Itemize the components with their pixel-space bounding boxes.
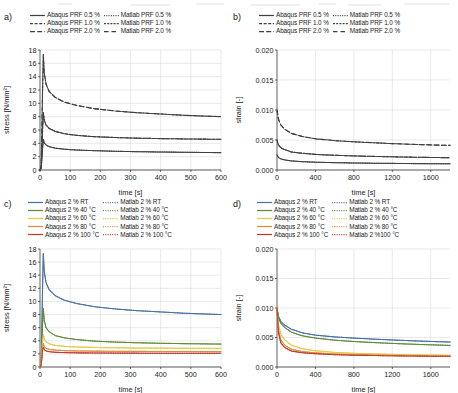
legend-label: Abaqus 2 % 60 °C	[45, 214, 96, 222]
y-tick-label: 2	[33, 152, 37, 161]
legend-line-swatch-icon	[332, 223, 347, 230]
panel-b: b) Abaqus PRF 0.5 %Matlab PRF 0.5 %Abaqu…	[229, 0, 458, 196]
legend-line-swatch-icon	[259, 28, 274, 35]
legend-line-swatch-icon	[28, 223, 43, 230]
legend-item: Matlab 2 % 80 °C	[103, 223, 172, 231]
legend-line-swatch-icon	[103, 231, 118, 238]
legend-item: Abaqus PRF 0.5 %	[30, 11, 100, 19]
legend-line-swatch-icon	[332, 199, 347, 206]
legend-item: Matlab 2 %100 °C	[332, 231, 399, 239]
legend-item: Matlab PRF 1.0 %	[104, 19, 171, 27]
legend-item: Abaqus 2 % RT	[28, 198, 99, 206]
legend-line-swatch-icon	[257, 223, 272, 230]
legend-item: Abaqus 2 % 100 °C	[257, 231, 328, 239]
legend-item: Matlab PRF 0.5 %	[333, 11, 400, 19]
x-tick-label: 100	[64, 173, 76, 182]
legend-item: Matlab PRF 1.0 %	[333, 19, 400, 27]
legend-line-swatch-icon	[257, 199, 272, 206]
legend-line-swatch-icon	[333, 12, 348, 19]
legend-line-swatch-icon	[28, 199, 43, 206]
chart-svg: 0.0000.0050.0100.0150.020040080012001600…	[229, 243, 458, 393]
x-tick-label: 300	[125, 370, 137, 379]
y-tick-label: 4	[33, 139, 37, 148]
y-axis-title: stress [N/mm²]	[2, 86, 11, 134]
legend-item: Abaqus 2 % 80 °C	[28, 223, 99, 231]
y-tick-label: 8	[33, 310, 37, 319]
y-tick-label: 18	[29, 245, 37, 254]
legend-item: Abaqus PRF 0.5 %	[259, 11, 329, 19]
legend-label: Matlab 2 % 40 °C	[349, 206, 397, 214]
legend-label: Abaqus PRF 0.5 %	[276, 11, 329, 19]
y-tick-label: 0.015	[256, 274, 274, 283]
panel-c-legend: Abaqus 2 % RTMatlab 2 % RTAbaqus 2 % 40 …	[28, 198, 172, 239]
gridlines	[40, 249, 221, 367]
legend-label: Matlab PRF 2.0 %	[121, 27, 171, 35]
x-tick-label: 0	[275, 370, 279, 379]
legend-item: Abaqus 2 % 40 °C	[257, 206, 328, 214]
panel-a-label: a)	[4, 12, 12, 22]
y-tick-label: 0.000	[256, 166, 274, 175]
legend-label: Matlab PRF 1.0 %	[121, 19, 171, 27]
legend-line-swatch-icon	[332, 231, 347, 238]
chart-svg: 0246810121416180100200300400500600time […	[0, 243, 229, 393]
legend-label: Abaqus 2 % 80 °C	[274, 223, 325, 231]
legend-item: Abaqus 2 % 80 °C	[257, 223, 328, 231]
legend-line-swatch-icon	[257, 231, 272, 238]
chart-svg: 0246810121416180100200300400500600time […	[0, 44, 229, 196]
legend-label: Abaqus 2 % RT	[45, 198, 88, 206]
panel-d-legend: Abaqus 2 % RTMatlab 2 % RTAbaqus 2 % 40 …	[257, 198, 399, 239]
panel-b-label: b)	[233, 12, 241, 22]
legend-line-swatch-icon	[28, 207, 43, 214]
x-tick-label: 400	[309, 370, 321, 379]
y-axis-title: stress [N/mm²]	[2, 284, 11, 332]
legend-item: Matlab 2 % 60 °C	[332, 214, 399, 222]
panel-a: a) Abaqus PRF 0.5 %Matlab PRF 0.5 %Abaqu…	[0, 0, 229, 196]
y-tick-label: 10	[29, 99, 37, 108]
panel-d: d) Abaqus 2 % RTMatlab 2 % RTAbaqus 2 % …	[229, 197, 458, 393]
y-tick-label: 0	[33, 363, 37, 372]
figure-panels: a) Abaqus PRF 0.5 %Matlab PRF 0.5 %Abaqu…	[0, 0, 458, 393]
x-tick-label: 0	[38, 370, 42, 379]
x-tick-label: 300	[125, 173, 137, 182]
legend-line-swatch-icon	[28, 215, 43, 222]
legend-label: Matlab PRF 1.0 %	[350, 19, 400, 27]
legend-item: Matlab 2 % RT	[103, 198, 172, 206]
legend-label: Matlab 2 % RT	[120, 198, 161, 206]
legend-label: Abaqus 2 % 80 °C	[45, 223, 96, 231]
legend-line-swatch-icon	[103, 199, 118, 206]
legend-label: Matlab 2 % 100 °C	[120, 231, 172, 239]
series-line	[277, 308, 450, 355]
chart-svg: 0.0000.0050.0100.0150.020040080012001600…	[229, 44, 458, 196]
legend-label: Abaqus PRF 2.0 %	[47, 27, 100, 35]
legend-item: Matlab 2 % 60 °C	[103, 214, 172, 222]
legend-label: Matlab PRF 0.5 %	[350, 11, 400, 19]
panel-b-plot: 0.0000.0050.0100.0150.020040080012001600…	[229, 44, 458, 196]
series-line	[277, 308, 450, 345]
y-tick-label: 0.010	[256, 304, 274, 313]
legend-label: Matlab 2 % RT	[349, 198, 390, 206]
legend-item: Matlab PRF 0.5 %	[104, 11, 171, 19]
x-tick-label: 0	[38, 173, 42, 182]
x-tick-label: 400	[309, 173, 321, 182]
legend-line-swatch-icon	[259, 12, 274, 19]
panel-d-label: d)	[233, 199, 241, 209]
y-tick-label: 16	[29, 258, 37, 267]
legend-line-swatch-icon	[332, 207, 347, 214]
legend-label: Abaqus 2 % 60 °C	[274, 214, 325, 222]
panel-c-label: c)	[4, 199, 12, 209]
legend-item: Abaqus 2 % 60 °C	[28, 214, 99, 222]
legend-line-swatch-icon	[103, 215, 118, 222]
x-tick-label: 200	[94, 173, 106, 182]
legend-line-swatch-icon	[257, 215, 272, 222]
panel-c-plot: 0246810121416180100200300400500600time […	[0, 243, 229, 393]
legend-label: Abaqus 2 % RT	[274, 198, 317, 206]
x-tick-label: 500	[185, 370, 197, 379]
legend-item: Abaqus PRF 2.0 %	[30, 27, 100, 35]
series-line	[277, 308, 450, 342]
legend-label: Matlab PRF 2.0 %	[350, 27, 400, 35]
legend-item: Matlab 2 % RT	[332, 198, 399, 206]
x-axis-title: time [s]	[352, 188, 376, 197]
legend-item: Matlab 2 % 100 °C	[103, 231, 172, 239]
y-tick-label: 12	[29, 284, 37, 293]
legend-label: Matlab 2 % 60 °C	[120, 214, 168, 222]
